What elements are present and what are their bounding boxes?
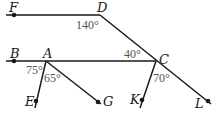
segment-dl [100, 15, 211, 104]
angle-label-bcd: 40° [124, 47, 141, 61]
label-d: D [96, 0, 108, 15]
point-l-dot [206, 99, 211, 104]
label-b: B [9, 46, 20, 61]
label-f: F [8, 0, 19, 15]
label-e: E [24, 94, 35, 109]
label-c: C [159, 52, 169, 67]
label-a: A [42, 46, 52, 61]
angle-label-eag: 65° [44, 71, 61, 85]
label-k: K [129, 92, 141, 107]
angle-label-fdc: 140° [76, 18, 99, 32]
point-g-dot [96, 100, 101, 105]
point-k-dot [140, 98, 145, 103]
label-l: L [194, 96, 204, 111]
label-g: G [103, 94, 113, 109]
geometry-diagram: F D B A C E G K L 140° 40° 75° 65° 70° [0, 0, 219, 115]
angle-label-kcl: 70° [153, 71, 170, 85]
angle-label-bae: 75° [26, 63, 43, 77]
